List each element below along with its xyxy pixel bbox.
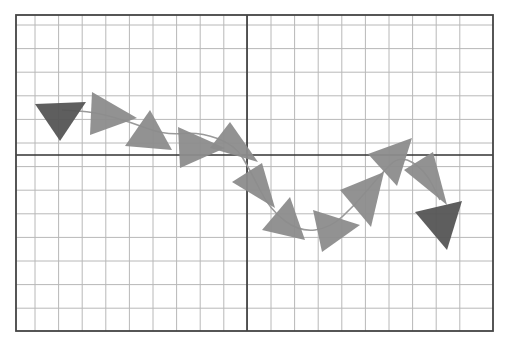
diagram-canvas (0, 0, 510, 348)
